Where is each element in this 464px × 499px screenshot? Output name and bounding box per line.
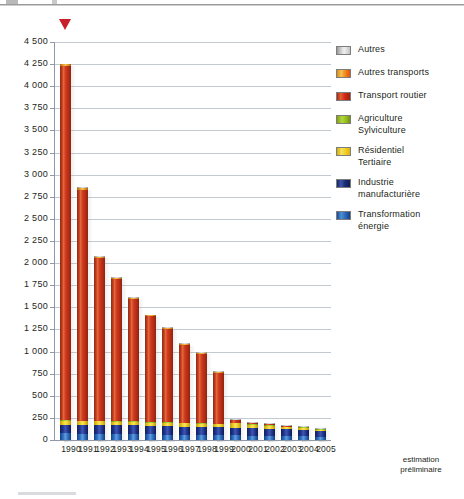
bar-segment — [213, 435, 224, 440]
legend-item-label: Autres transports — [358, 67, 429, 79]
bar-segment — [230, 423, 241, 427]
legend-item[interactable]: Agriculture Sylviculture — [336, 113, 464, 136]
y-axis-tick-label: 4 000 — [4, 80, 48, 90]
legend-swatch-autres-transports — [336, 69, 351, 78]
bar-segment — [145, 315, 156, 316]
y-axis-tick-label: 2 000 — [4, 257, 48, 267]
bar-segment — [213, 427, 224, 435]
bar-segment — [179, 343, 190, 344]
bar-segment — [77, 421, 88, 425]
legend-swatch-industrie — [336, 179, 351, 188]
bar-segment — [264, 423, 275, 424]
legend-item-label: Transformation énergie — [358, 209, 420, 232]
bar-segment — [128, 297, 139, 298]
legend-swatch-agriculture — [336, 115, 351, 124]
bar-1993 — [111, 42, 122, 440]
bar-segment — [162, 327, 173, 328]
bar-segment — [145, 315, 156, 316]
bar-segment — [111, 422, 122, 425]
bar-segment — [162, 328, 173, 329]
bar-segment — [60, 433, 71, 440]
legend-item[interactable]: Autres transports — [336, 67, 464, 81]
bar-segment — [94, 434, 105, 440]
bar-segment — [213, 373, 224, 424]
bar-segment — [77, 425, 88, 434]
y-axis-tick — [50, 440, 55, 441]
bar-segment — [179, 427, 190, 435]
legend-item[interactable]: Transformation énergie — [336, 209, 464, 232]
bar-2000 — [230, 42, 241, 440]
y-axis-tick-label: 2 500 — [4, 213, 48, 223]
bar-segment — [196, 352, 207, 353]
bar-segment — [298, 436, 309, 440]
bar-segment — [60, 425, 71, 434]
bar-segment — [94, 257, 105, 258]
bar-1994 — [128, 42, 139, 440]
y-axis-tick-label: 500 — [4, 390, 48, 400]
bar-segment — [145, 426, 156, 434]
bar-segment — [247, 425, 258, 429]
bar-1999 — [213, 42, 224, 440]
bar-segment — [111, 425, 122, 434]
bar-segment — [247, 428, 258, 435]
bar-segment — [60, 64, 71, 66]
bar-segment — [230, 435, 241, 440]
bar-1992 — [94, 42, 105, 440]
bar-segment — [128, 298, 139, 299]
bar-segment — [281, 427, 292, 429]
legend-item[interactable]: Résidentiel Tertiaire — [336, 145, 464, 168]
bar-segment — [230, 420, 241, 423]
y-axis-tick-label: 3 000 — [4, 169, 48, 179]
bar-segment — [315, 428, 326, 429]
bar-segment — [230, 419, 241, 420]
y-axis-tick-label: 250 — [4, 412, 48, 422]
bar-segment — [213, 424, 224, 427]
bar-segment — [315, 430, 326, 431]
bar-2001 — [247, 42, 258, 440]
x-axis-tick-label: 2005 — [311, 444, 341, 454]
legend-item[interactable]: Autres — [336, 44, 464, 58]
bar-2004 — [298, 42, 309, 440]
legend-swatch-residentiel — [336, 147, 351, 156]
y-axis-tick-label: 2 250 — [4, 235, 48, 245]
bar-segment — [196, 354, 207, 424]
bar-2003 — [281, 42, 292, 440]
legend-item-label: Autres — [358, 44, 385, 56]
y-axis-tick-label: 4 500 — [4, 36, 48, 46]
legend-swatch-autres — [336, 46, 351, 55]
bar-segment — [94, 421, 105, 425]
legend-item-label: Agriculture Sylviculture — [358, 113, 406, 136]
bar-segment — [162, 435, 173, 440]
bar-segment — [264, 424, 275, 425]
legend-swatch-transformation — [336, 211, 351, 220]
bar-segment — [111, 278, 122, 279]
bar-segment — [77, 190, 88, 421]
bar-segment — [196, 353, 207, 354]
scan-artifact-left — [6, 0, 18, 4]
bar-segment — [94, 425, 105, 434]
bar-segment — [315, 437, 326, 440]
red-triangle-marker-icon — [59, 19, 71, 30]
bar-segment — [298, 428, 309, 430]
bar-segment — [77, 187, 88, 188]
stacked-bar-chart: 4 5004 2504 0003 7503 5003 2503 0002 750… — [0, 0, 464, 499]
legend-item[interactable]: Transport routier — [336, 90, 464, 104]
y-axis-tick-label: 1 000 — [4, 346, 48, 356]
bar-segment — [196, 427, 207, 435]
y-axis-tick-label: 0 — [4, 434, 48, 444]
bar-segment — [179, 344, 190, 345]
bar-segment — [196, 424, 207, 427]
bar-segment — [264, 429, 275, 436]
bar-segment — [111, 279, 122, 421]
legend-item[interactable]: Industrie manufacturière — [336, 177, 464, 200]
y-axis-tick-label: 750 — [4, 368, 48, 378]
bar-segment — [145, 434, 156, 440]
scan-artifact-second — [52, 0, 57, 4]
bar-segment — [281, 436, 292, 440]
bar-segment — [162, 423, 173, 426]
bar-segment — [162, 426, 173, 434]
bar-segment — [230, 428, 241, 436]
bar-1990 — [60, 42, 71, 440]
y-axis-tick-label: 1 500 — [4, 301, 48, 311]
bar-1998 — [196, 42, 207, 440]
